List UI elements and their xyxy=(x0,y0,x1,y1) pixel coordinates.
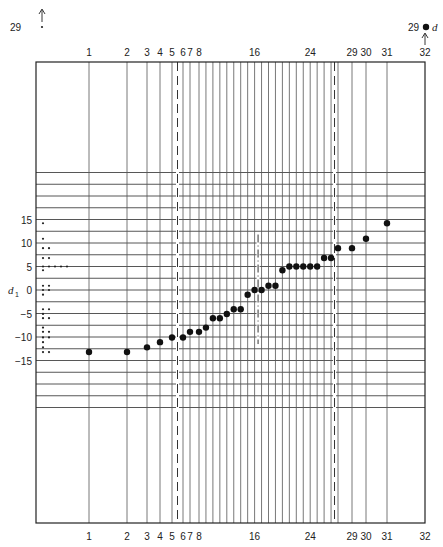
data-point xyxy=(217,315,223,321)
plot-frame xyxy=(36,62,425,523)
data-point xyxy=(86,349,92,355)
data-point xyxy=(286,263,292,269)
data-point xyxy=(251,287,257,293)
marginal-dot xyxy=(48,351,50,353)
marginal-dot xyxy=(48,247,50,249)
x-tick-label-bottom: 30 xyxy=(360,531,372,542)
marginal-dot-plot xyxy=(42,222,68,353)
marginal-dot xyxy=(42,317,44,319)
marginal-dot xyxy=(42,238,44,240)
marginal-dot xyxy=(48,317,50,319)
marginal-dot xyxy=(42,289,44,291)
y-tick-label: 5 xyxy=(26,262,32,273)
marginal-dot xyxy=(48,289,50,291)
y-tick-label: −5 xyxy=(21,309,33,320)
x-tick-label-top: 32 xyxy=(419,47,431,58)
x-tick-label-bottom: 7 xyxy=(187,531,193,542)
x-axis-bottom-labels: 12345678162429303132 xyxy=(86,531,431,542)
x-tick-label-top: 3 xyxy=(144,47,150,58)
data-point xyxy=(196,329,202,335)
data-point xyxy=(384,220,390,226)
x-tick-label-top: 29 xyxy=(346,47,358,58)
marginal-dot xyxy=(42,336,44,338)
data-point xyxy=(244,292,250,298)
x-tick-label-bottom: 1 xyxy=(86,531,92,542)
marginal-dot xyxy=(42,341,44,343)
marginal-dot xyxy=(42,313,44,315)
x-tick-label-bottom: 2 xyxy=(124,531,130,542)
data-point xyxy=(187,329,193,335)
marginal-dot xyxy=(42,222,44,224)
x-tick-label-top: 6 xyxy=(180,47,186,58)
x-tick-label-top: 30 xyxy=(360,47,372,58)
x-tick-label-bottom: 3 xyxy=(144,531,150,542)
data-point xyxy=(328,255,334,261)
outlier-point xyxy=(423,24,429,30)
y-tick-label: −10 xyxy=(15,332,32,343)
x-tick-label-bottom: 24 xyxy=(305,531,317,542)
data-point xyxy=(321,255,327,261)
x-tick-label-top: 16 xyxy=(249,47,261,58)
marginal-dot xyxy=(42,294,44,296)
annotations: 2929d xyxy=(10,9,438,45)
plot-border xyxy=(36,62,425,523)
ranked-deviation-chart: 12345678162429303132 1234567816242930313… xyxy=(0,0,443,547)
data-point xyxy=(335,245,341,251)
marginal-dot xyxy=(48,285,50,287)
x-tick-label-top: 4 xyxy=(157,47,163,58)
x-tick-label-top: 24 xyxy=(305,47,317,58)
data-point xyxy=(169,334,175,340)
marginal-dot xyxy=(42,346,44,348)
y-axis-labels: 151050−5−10−15d1 xyxy=(8,215,32,367)
data-point xyxy=(272,283,278,289)
x-tick-label-bottom: 16 xyxy=(249,531,261,542)
marginal-dot xyxy=(42,285,44,287)
y-tick-label: 10 xyxy=(21,238,33,249)
marginal-dot xyxy=(48,257,50,259)
x-tick-label-top: 31 xyxy=(381,47,393,58)
data-point xyxy=(349,245,355,251)
x-tick-label-bottom: 8 xyxy=(196,531,202,542)
x-axis-top-labels: 12345678162429303132 xyxy=(86,47,431,58)
marginal-dot xyxy=(42,308,44,310)
marginal-dot xyxy=(42,351,44,353)
marginal-dot xyxy=(42,269,44,271)
data-point xyxy=(265,283,271,289)
data-point xyxy=(203,324,209,330)
marginal-dot xyxy=(42,327,44,329)
x-tick-label-bottom: 32 xyxy=(419,531,431,542)
marginal-dot xyxy=(48,265,50,267)
marginal-dot xyxy=(48,336,50,338)
marginal-dot xyxy=(60,265,62,267)
x-tick-label-top: 7 xyxy=(187,47,193,58)
marginal-dot xyxy=(42,247,44,249)
y-tick-label: 0 xyxy=(26,285,32,296)
x-tick-label-bottom: 6 xyxy=(180,531,186,542)
data-point xyxy=(300,263,306,269)
y-axis-title: d xyxy=(8,284,14,296)
marginal-dot xyxy=(42,257,44,259)
x-tick-label-top: 2 xyxy=(124,47,130,58)
data-point xyxy=(224,311,230,317)
data-point xyxy=(157,339,163,345)
data-point xyxy=(314,263,320,269)
data-point xyxy=(363,236,369,242)
marginal-dot xyxy=(48,308,50,310)
x-tick-label-bottom: 29 xyxy=(346,531,358,542)
y-axis-title-subscript: 1 xyxy=(15,291,19,298)
x-tick-label-top: 1 xyxy=(86,47,92,58)
data-point xyxy=(258,287,264,293)
y-tick-label: −15 xyxy=(15,356,32,367)
data-point xyxy=(293,263,299,269)
data-point xyxy=(124,349,130,355)
top-left-dot xyxy=(41,26,43,28)
data-points xyxy=(86,220,390,355)
x-tick-label-top: 8 xyxy=(196,47,202,58)
marginal-dot xyxy=(66,265,68,267)
x-tick-label-bottom: 5 xyxy=(169,531,175,542)
data-point xyxy=(144,344,150,350)
marginal-dot xyxy=(42,265,44,267)
marginal-dot xyxy=(54,265,56,267)
x-tick-label-bottom: 31 xyxy=(381,531,393,542)
marginal-dot xyxy=(42,331,44,333)
